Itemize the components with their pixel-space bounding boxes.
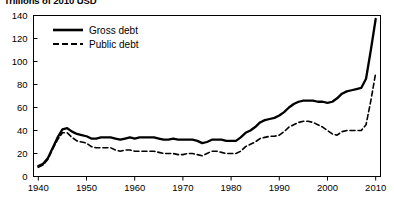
x-axis-tick-labels: 19401950196019701980199020002010 (28, 182, 387, 193)
y-tick-label: 120 (12, 33, 28, 44)
x-tick-label: 1980 (221, 182, 242, 193)
legend-label-public-debt: Public debt (89, 39, 139, 50)
x-tick-label: 1990 (269, 182, 290, 193)
series-line-public-debt (38, 73, 375, 167)
y-tick-label: 140 (12, 10, 28, 21)
legend-label-gross-debt: Gross debt (89, 25, 138, 36)
x-tick-label: 1970 (172, 182, 193, 193)
x-tick-label: 1960 (124, 182, 145, 193)
x-tick-label: 1940 (28, 182, 49, 193)
y-tick-label: 60 (17, 102, 28, 113)
chart-plot-area: 19401950196019701980199020002010 0204060… (0, 0, 394, 198)
y-tick-label: 20 (17, 148, 28, 159)
y-tick-label: 40 (17, 125, 28, 136)
tick-marks (34, 16, 376, 181)
y-axis-tick-labels: 020406080100120140 (12, 10, 28, 182)
x-tick-label: 2000 (317, 182, 338, 193)
y-tick-label: 100 (12, 56, 28, 67)
y-tick-label: 80 (17, 79, 28, 90)
chart-legend: Gross debtPublic debt (53, 25, 139, 50)
axes (34, 16, 381, 177)
x-tick-label: 1950 (76, 182, 97, 193)
chart-container: Trillions of 2010 USD 194019501960197019… (0, 0, 394, 198)
x-tick-label: 2010 (365, 182, 386, 193)
y-tick-label: 0 (22, 171, 27, 182)
